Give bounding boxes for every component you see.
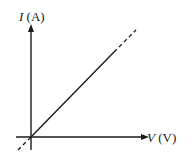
dashed-extrapolation-lower	[18, 137, 31, 150]
y-axis-arrowhead-icon	[28, 24, 34, 32]
y-axis-unit: (A)	[27, 9, 45, 24]
y-axis-variable: I	[19, 9, 23, 24]
iv-graph: I (A) V (V)	[0, 0, 192, 162]
y-axis-label: I (A)	[19, 10, 45, 23]
x-axis-label: V (V)	[147, 131, 176, 144]
iv-line-solid	[31, 52, 114, 137]
x-axis-variable: V	[147, 130, 155, 145]
dashed-extrapolation-upper	[114, 30, 136, 52]
x-axis-unit: (V)	[158, 130, 176, 145]
